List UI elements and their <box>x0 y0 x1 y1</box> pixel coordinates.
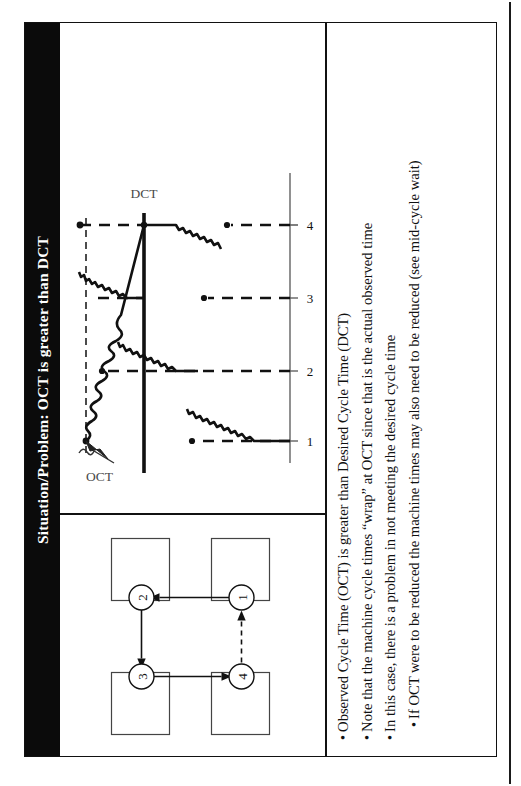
list-item: •Note that the machine cycle times “wrap… <box>355 40 379 740</box>
flow-arrow-4-to-1-head <box>237 610 245 620</box>
chart-svg: 1 2 3 4 <box>68 33 318 503</box>
station-guide-dot-4 <box>223 222 229 228</box>
slide-frame: Situation/Problem: OCT is greater than D… <box>24 22 497 757</box>
bullet-text: If OCT were to be reduced the machine ti… <box>405 160 421 719</box>
list-item: •Observed Cycle Time (OCT) is greater th… <box>332 40 356 740</box>
x-tick-label-1: 1 <box>306 434 313 449</box>
page-title: Situation/Problem: OCT is greater than D… <box>34 235 52 543</box>
bullet-text: In this case, there is a problem in not … <box>382 334 398 731</box>
step-circle-2: 2 <box>129 585 154 610</box>
station-guide-dot-1 <box>188 438 194 444</box>
step-circle-1-label: 1 <box>234 594 249 601</box>
step-circle-2-label: 2 <box>134 594 149 601</box>
step-circle-3: 3 <box>129 664 154 689</box>
station-guide-3 <box>200 295 289 301</box>
work-cell-diagram-pane: 3 2 4 1 <box>60 515 325 756</box>
dct-label: DCT <box>130 186 158 201</box>
bullet-text-block: •Observed Cycle Time (OCT) is greater th… <box>332 40 492 740</box>
x-tick-label-3: 3 <box>306 291 313 306</box>
bullet-text: Observed Cycle Time (OCT) is greater tha… <box>335 312 351 731</box>
oct-arrow-leader <box>79 449 114 463</box>
oct-wrap-dot <box>76 222 83 229</box>
step-circle-4-label: 4 <box>234 672 249 679</box>
cycle-time-chart-pane: 1 2 3 4 <box>60 23 325 513</box>
step-circle-1: 1 <box>229 585 254 610</box>
bullet-text: Note that the machine cycle times “wrap”… <box>358 222 374 731</box>
work-cell-svg: 3 2 4 1 <box>93 523 293 748</box>
bullet-marker-icon: • <box>379 734 403 739</box>
bullet-marker-icon: • <box>402 721 426 726</box>
station-guide-dot-3 <box>200 295 206 301</box>
cycle-curve-station-3 <box>79 272 144 298</box>
bullet-marker-icon: • <box>332 734 356 739</box>
cycle-time-chart: 1 2 3 4 <box>68 33 318 503</box>
x-tick-label-4: 4 <box>306 218 313 233</box>
oct-label: OCT <box>86 469 114 484</box>
bullet-marker-icon: • <box>355 734 379 739</box>
cycle-curve-station-1 <box>187 409 290 441</box>
page-edge-rule <box>509 2 511 784</box>
work-cell-diagram: 3 2 4 1 <box>93 523 293 748</box>
list-item: •In this case, there is a problem in not… <box>379 40 403 740</box>
cycle-curve-station-4 <box>144 225 221 249</box>
list-item: •If OCT were to be reduced the machine t… <box>402 40 426 740</box>
x-tick-label-2: 2 <box>306 364 313 379</box>
cycle-curve-station-4-wrap <box>86 225 144 441</box>
cycle-curve-station-2 <box>118 342 198 371</box>
bullet-list: •Observed Cycle Time (OCT) is greater th… <box>332 40 427 740</box>
slide-body: 1 2 3 4 <box>60 23 496 756</box>
dct-intersect-dot <box>140 222 146 228</box>
oct-arrow-head <box>86 441 108 459</box>
step-circle-3-label: 3 <box>134 673 149 680</box>
slide-title-bar: Situation/Problem: OCT is greater than D… <box>25 23 60 756</box>
step-circle-4: 4 <box>229 664 254 689</box>
station-guide-4 <box>223 222 289 228</box>
bullet-text-pane: •Observed Cycle Time (OCT) is greater th… <box>327 23 496 756</box>
